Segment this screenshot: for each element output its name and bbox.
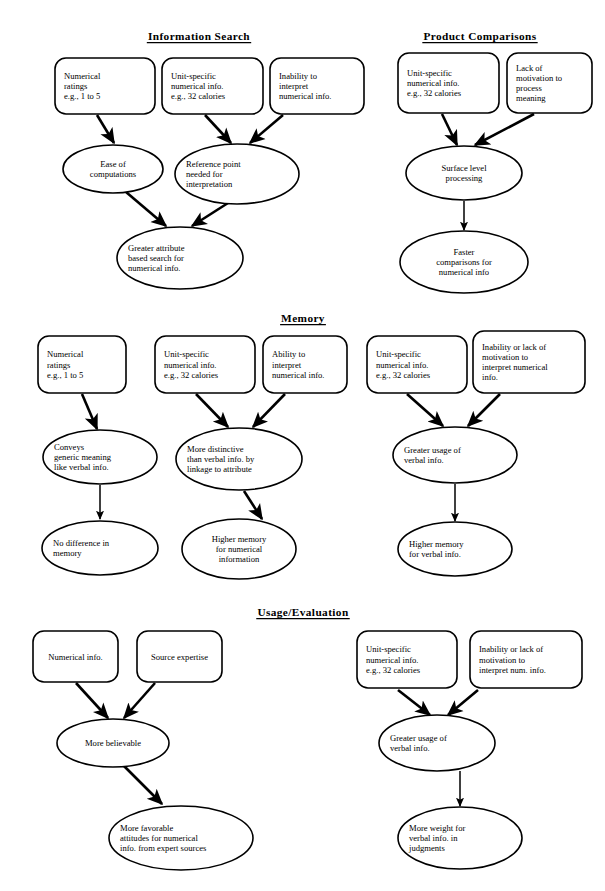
node-text-line: interpret [272, 360, 302, 370]
node-text-line: Faster [453, 247, 474, 257]
node-text-line: Numerical [47, 349, 84, 359]
node-text-line: process [516, 83, 542, 93]
node-text-line: computations [90, 169, 137, 179]
node-text-line: Inability or lack of [479, 644, 543, 654]
node-text-line: Inability to [279, 71, 317, 81]
arrow-me-n1-to-me-n6 [82, 394, 97, 429]
node-text-line: processing [446, 173, 483, 183]
node-text-line: Unit-specific [376, 349, 421, 359]
node-box-ue-n1: Numerical info. [33, 631, 118, 682]
arrow-me-n5-to-me-n8 [468, 394, 500, 426]
node-text-line: memory [53, 548, 82, 558]
section-title-text: Product Comparisons [423, 30, 536, 42]
node-text-line: Unit-specific [366, 644, 411, 654]
node-text-line: Unit-specific [407, 68, 452, 78]
node-text-line: More distinctive [187, 444, 244, 454]
node-ellipse-ue-n5: More believable [57, 719, 169, 767]
node-text-line: Unit-specific [164, 349, 209, 359]
node-ellipse-is-n4: Ease ofcomputations [63, 145, 163, 193]
node-text-line: generic meaning [54, 452, 112, 462]
node-text-line: verbal info. in [409, 833, 458, 843]
node-ellipse-ue-n8: More weight forverbal info. injudgments [398, 807, 522, 869]
node-box-is-n1: Numericalratingse.g., 1 to 5 [55, 58, 155, 114]
node-box-ue-n3: Unit-specificnumerical info.e.g., 32 cal… [357, 631, 457, 688]
node-text-line: info. [482, 372, 498, 382]
node-box-me-n2: Unit-specificnumerical info.e.g., 32 cal… [155, 336, 255, 393]
node-text-line: Inability or lack of [482, 342, 546, 352]
section-title-text: Memory [281, 312, 325, 324]
node-text-line: Source expertise [151, 652, 208, 662]
node-ellipse-is-n5: Reference pointneeded forinterpretation [175, 144, 299, 204]
node-text-line: e.g., 32 calories [376, 370, 431, 380]
node-text-line: for verbal info. [409, 549, 461, 559]
node-ellipse-me-n11: Higher memoryfor verbal info. [398, 522, 512, 576]
node-text-line: ratings [47, 360, 71, 370]
node-ellipse-pc-n3: Surface levelprocessing [406, 146, 522, 200]
section-title-memory: Memory [280, 312, 326, 325]
node-ellipse-ue-n6: Greater usage ofverbal info. [379, 715, 495, 771]
node-text-line: verbal info. [390, 743, 430, 753]
node-ellipse-me-n6: Conveysgeneric meaninglike verbal info. [43, 430, 157, 484]
node-text-line: No difference in [53, 538, 110, 548]
node-text-line: numerical info. [366, 655, 419, 665]
node-text-line: based search for [128, 253, 184, 263]
node-text-line: numerical info. [171, 81, 224, 91]
flowchart-canvas: Information SearchProduct ComparisonsMem… [0, 0, 605, 891]
node-text-line: motivation to [479, 655, 525, 665]
arrow-ue-n1-to-ue-n5 [76, 683, 108, 718]
node-text-line: More believable [85, 738, 141, 748]
node-text-line: meaning [516, 93, 546, 103]
node-text-line: e.g., 32 calories [164, 370, 219, 380]
node-text-line: Unit-specific [171, 71, 216, 81]
node-box-me-n3: Ability tointerpretnumerical info. [263, 336, 347, 393]
node-box-pc-n1: Unit-specificnumerical info.e.g., 32 cal… [398, 53, 499, 113]
node-text-line: e.g., 32 calories [366, 665, 421, 675]
node-text-line: motivation to [516, 73, 562, 83]
node-box-is-n3: Inability tointerpretnumerical info. [270, 58, 364, 114]
node-text-line: Numerical [64, 71, 101, 81]
arrow-ue-n4-to-ue-n6 [448, 690, 478, 715]
node-ellipse-ue-n7: More favorableattitudes for numericalinf… [109, 806, 253, 870]
node-text-line: Higher memory [212, 534, 267, 544]
node-text-line: More weight for [409, 823, 465, 833]
section-title-information-search: Information Search [147, 30, 251, 43]
node-ellipse-is-n6: Greater attributebased search fornumeric… [117, 227, 243, 289]
node-text-line: Lack of [516, 63, 543, 73]
node-text-line: Ability to [272, 349, 305, 359]
node-text-line: info. from expert sources [120, 843, 207, 853]
node-text-line: interpretation [186, 179, 233, 189]
node-box-ue-n4: Inability or lack ofmotivation tointerpr… [470, 631, 582, 688]
arrow-ue-n3-to-ue-n6 [398, 690, 430, 715]
node-text-line: needed for [186, 169, 223, 179]
node-text-line: ratings [64, 81, 88, 91]
arrow-is-n3-to-is-n5 [250, 115, 283, 143]
node-text-line: numerical info [439, 267, 489, 277]
node-text-line: interpret numerical [482, 362, 548, 372]
node-text-line: e.g., 32 calories [171, 91, 226, 101]
node-text-line: More favorable [120, 823, 173, 833]
arrow-me-n3-to-me-n7 [253, 394, 285, 427]
node-text-line: Numerical info. [48, 652, 102, 662]
node-box-me-n4: Unit-specificnumerical info.e.g., 32 cal… [367, 336, 467, 393]
node-ellipse-me-n8: Greater usage ofverbal info. [393, 427, 517, 483]
arrow-is-n4-to-is-n6 [126, 192, 166, 226]
arrow-me-n4-to-me-n8 [407, 394, 443, 426]
arrow-is-n5-to-is-n6 [192, 203, 228, 226]
node-ellipse-me-n10: Higher memoryfor numericalinformation [182, 519, 296, 579]
arrow-pc-n1-to-pc-n3 [442, 114, 457, 145]
node-box-me-n1: Numericalratingse.g., 1 to 5 [38, 336, 126, 393]
node-text-line: than verbal info. by [187, 454, 255, 464]
section-title-text: Information Search [148, 30, 250, 42]
arrow-pc-n2-to-pc-n3 [475, 114, 534, 145]
arrow-me-n2-to-me-n7 [196, 394, 228, 427]
node-text-line: Greater attribute [128, 243, 185, 253]
nodes-layer: Numericalratingse.g., 1 to 5Unit-specifi… [33, 53, 592, 870]
node-text-line: interpret num. info. [479, 665, 546, 675]
node-text-line: Greater usage of [390, 733, 447, 743]
node-text-line: judgments [408, 843, 445, 853]
node-text-line: Surface level [441, 163, 487, 173]
flowchart-diagram: Information SearchProduct ComparisonsMem… [0, 0, 605, 891]
node-text-line: information [219, 554, 260, 564]
section-title-usage-evaluation: Usage/Evaluation [256, 606, 349, 619]
node-text-line: Higher memory [409, 539, 464, 549]
